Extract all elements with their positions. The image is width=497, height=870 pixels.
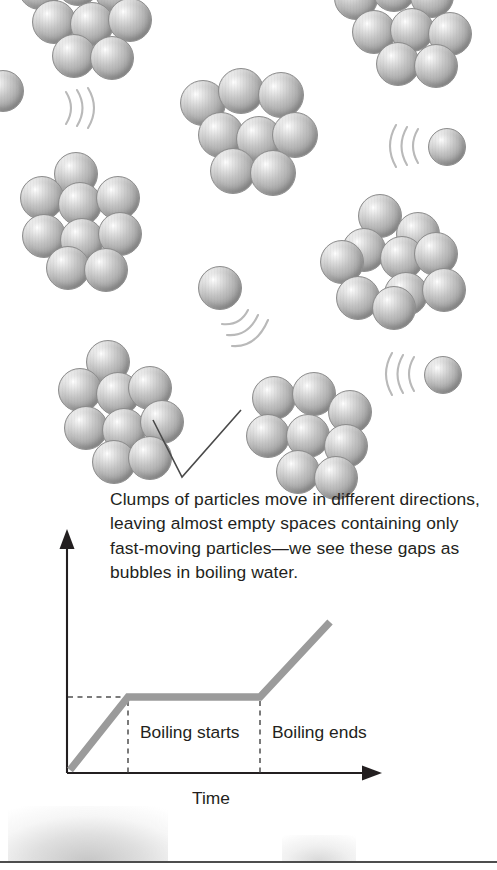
heating-curve-chart: Temperature — [0, 515, 497, 815]
y-axis-arrow-icon — [60, 529, 75, 549]
free-particle-centre — [198, 266, 242, 310]
particle — [372, 286, 416, 330]
free-particle-left-edge — [0, 70, 24, 112]
boiling-starts-label: Boiling starts — [140, 722, 240, 743]
decorative-texture-right — [282, 835, 356, 862]
particle — [90, 36, 134, 80]
motion-lines-icon — [388, 124, 426, 168]
motion-lines-icon — [60, 86, 102, 130]
particle — [250, 150, 296, 196]
decorative-texture-left — [8, 806, 168, 862]
particle — [218, 68, 264, 114]
particle — [258, 72, 304, 118]
motion-lines-icon — [218, 306, 278, 358]
free-particle-lower-right — [424, 356, 462, 394]
particle — [414, 44, 458, 88]
x-axis-label: Time — [192, 788, 230, 809]
particle — [246, 414, 290, 458]
particle — [128, 436, 172, 480]
boiling-ends-label: Boiling ends — [272, 722, 367, 743]
illustration-stage: Clumps of particles move in different di… — [0, 0, 497, 870]
free-particle-upper-right — [428, 128, 466, 166]
page-divider-rule — [0, 861, 497, 863]
particle — [422, 268, 466, 312]
particle — [84, 248, 128, 292]
x-axis-arrow-icon — [362, 766, 382, 781]
particle — [252, 376, 296, 420]
motion-lines-icon — [384, 352, 422, 396]
